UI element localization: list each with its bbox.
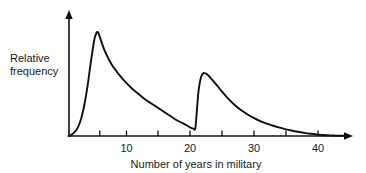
x-axis-title: Number of years in military xyxy=(131,158,262,170)
x-tick-label-20: 20 xyxy=(184,142,196,154)
x-tick-label-10: 10 xyxy=(120,142,132,154)
x-axis-ticks xyxy=(100,131,318,137)
y-axis-arrow-icon xyxy=(65,10,72,19)
density-curve xyxy=(69,32,349,136)
x-tick-label-40: 40 xyxy=(312,142,324,154)
relative-frequency-chart: Relative frequency 10 20 30 40 Number of… xyxy=(0,0,366,173)
x-tick-label-30: 30 xyxy=(248,142,260,154)
plot-area: 10 20 30 40 Number of years in military xyxy=(0,0,366,173)
